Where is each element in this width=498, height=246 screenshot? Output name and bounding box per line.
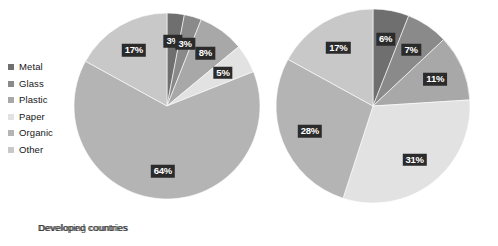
legend-label-organic: Organic (19, 125, 53, 142)
slice-label-organic: 64% (151, 165, 175, 178)
legend-swatch-plastic (8, 97, 14, 103)
legend-swatch-glass (8, 81, 14, 87)
pie-panel-developed: 6%7%11%31%28%17% (290, 6, 456, 206)
legend-item-organic: Organic (8, 125, 86, 142)
slice-label-paper: 31% (402, 153, 426, 166)
waste-composition-pie-figure: Metal Glass Plastic Paper Organic Other … (0, 0, 498, 246)
legend-item-metal: Metal (8, 59, 86, 76)
slice-label-glass: 3% (176, 37, 195, 50)
legend-item-glass: Glass (8, 76, 86, 93)
legend-label-paper: Paper (19, 109, 45, 126)
slice-label-plastic: 11% (423, 73, 447, 86)
legend-swatch-metal (8, 64, 14, 70)
slice-label-other: 17% (326, 41, 350, 54)
legend-label-glass: Glass (19, 76, 44, 93)
legend-item-other: Other (8, 142, 86, 159)
legend-swatch-other (8, 147, 14, 153)
slice-label-plastic: 8% (196, 47, 215, 60)
legend-label-other: Other (19, 142, 43, 159)
pie-chart-developing: 3%3%8%5%64%17% (84, 6, 250, 206)
slice-label-organic: 28% (298, 125, 322, 138)
pie-chart-developed: 6%7%11%31%28%17% (290, 6, 456, 206)
legend-swatch-paper (8, 114, 14, 120)
pie-svg-developed (290, 6, 456, 206)
caption-developed: Developed countries (0, 222, 166, 233)
legend-label-metal: Metal (19, 59, 43, 76)
slice-label-paper: 5% (213, 67, 232, 80)
slice-label-other: 17% (122, 44, 146, 57)
legend-label-plastic: Plastic (19, 92, 48, 109)
slice-label-glass: 7% (402, 44, 421, 57)
legend-swatch-organic (8, 130, 14, 136)
pie-slices-developed (276, 9, 470, 203)
pie-panel-developing: 3%3%8%5%64%17% (84, 6, 250, 206)
slice-label-metal: 6% (376, 33, 395, 46)
